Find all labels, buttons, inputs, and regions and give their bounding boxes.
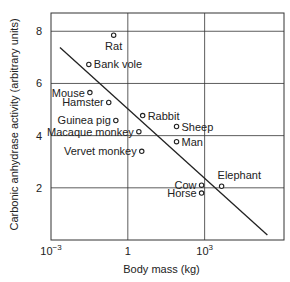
- point-label-vervet-monkey: Vervet monkey: [64, 145, 137, 157]
- data-point-bank-vole: [87, 62, 91, 66]
- y-tick-label: 4: [36, 130, 42, 142]
- y-axis-label: Carbonic anhydrase activity (arbitrary u…: [8, 18, 20, 230]
- data-point-guinea-pig: [114, 118, 118, 122]
- data-point-vervet-monkey: [140, 149, 144, 153]
- point-label-rabbit: Rabbit: [148, 110, 180, 122]
- x-tick-label: 1: [125, 245, 131, 257]
- point-label-sheep: Sheep: [182, 121, 214, 133]
- y-tick-label: 8: [36, 25, 42, 37]
- data-point-cow: [199, 183, 203, 187]
- data-point-macaque-monkey: [137, 130, 141, 134]
- point-label-rat: Rat: [105, 40, 122, 52]
- y-tick-label: 6: [36, 77, 42, 89]
- x-tick-label: 10−3: [40, 243, 62, 257]
- data-point-hamster: [107, 100, 111, 104]
- point-label-elephant: Elephant: [218, 169, 261, 181]
- data-point-elephant: [219, 184, 223, 188]
- point-label-horse: Horse: [167, 187, 196, 199]
- chart: RatBank voleMouseHamsterGuinea pigMacaqu…: [0, 0, 290, 282]
- data-point-horse: [199, 191, 203, 195]
- data-point-sheep: [174, 124, 178, 128]
- regression-line: [60, 47, 267, 235]
- points-layer: RatBank voleMouseHamsterGuinea pigMacaqu…: [47, 33, 261, 199]
- point-label-macaque-monkey: Macaque monkey: [47, 126, 134, 138]
- y-tick-label: 2: [36, 182, 42, 194]
- point-label-guinea-pig: Guinea pig: [58, 114, 111, 126]
- point-label-man: Man: [182, 136, 203, 148]
- data-point-mouse: [88, 90, 92, 94]
- data-point-rabbit: [140, 113, 144, 117]
- x-tick-label: 103: [196, 243, 213, 257]
- x-axis-label: Body mass (kg): [123, 263, 199, 275]
- point-label-bank-vole: Bank vole: [94, 58, 142, 70]
- data-point-rat: [111, 33, 115, 37]
- data-point-man: [174, 139, 178, 143]
- point-label-hamster: Hamster: [62, 96, 104, 108]
